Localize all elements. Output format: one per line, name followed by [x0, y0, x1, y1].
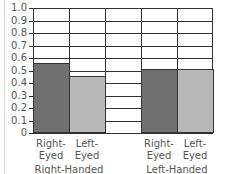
y-tick-label: 0.2 [1, 103, 27, 113]
y-tick-label: 0.7 [1, 41, 27, 51]
gridline [33, 58, 213, 59]
y-tick-label: 0.5 [1, 66, 27, 76]
x-group-label: Left-Handed [132, 164, 222, 174]
gridline [33, 21, 213, 22]
gridline [33, 46, 213, 47]
x-category-label: Right-Eyed [31, 138, 71, 162]
y-tick-label: 1.0 [1, 3, 27, 13]
y-tick-label: 0.6 [1, 53, 27, 63]
y-tick-label: 0.4 [1, 78, 27, 88]
y-tick [29, 121, 33, 122]
y-tick [29, 21, 33, 22]
y-tick-label: 0 [1, 128, 27, 138]
y-tick [29, 108, 33, 109]
y-tick [29, 8, 33, 9]
y-tick-label: 0.3 [1, 91, 27, 101]
bar-left-handed-right-eyed [141, 69, 178, 133]
y-tick [29, 96, 33, 97]
y-tick-label: 0.9 [1, 16, 27, 26]
y-tick [29, 133, 33, 134]
x-category-label: Right-Eyed [139, 138, 179, 162]
x-category-label: Left-Eyed [175, 138, 215, 162]
x-group-label: Right-Handed [24, 164, 114, 174]
bar-left-handed-left-eyed [177, 69, 214, 133]
plot-area [33, 8, 213, 133]
y-tick-label: 0.8 [1, 28, 27, 38]
y-tick [29, 58, 33, 59]
y-axis [33, 8, 34, 134]
bar-right-handed-right-eyed [33, 63, 70, 133]
x-category-label: Left-Eyed [67, 138, 107, 162]
y-tick [29, 71, 33, 72]
x-axis [33, 133, 213, 134]
y-tick-label: 0.1 [1, 116, 27, 126]
y-tick [29, 83, 33, 84]
gridline [33, 33, 213, 34]
bar-right-handed-left-eyed [69, 76, 106, 133]
gridline [33, 8, 213, 9]
y-tick [29, 46, 33, 47]
y-tick [29, 33, 33, 34]
